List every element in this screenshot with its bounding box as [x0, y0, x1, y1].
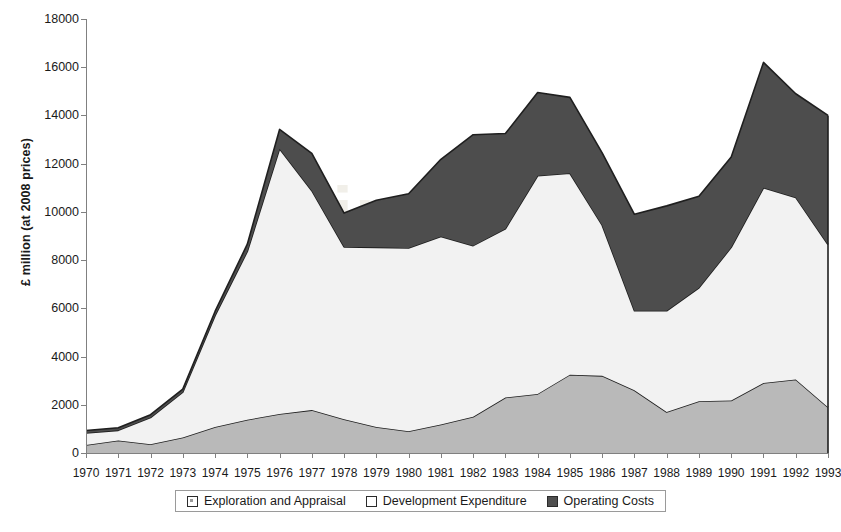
y-tick-label: 2000 — [51, 398, 79, 412]
x-tick-label: 1970 — [73, 466, 100, 480]
y-tick — [81, 67, 86, 68]
x-tick — [796, 453, 797, 458]
x-tick-label: 1990 — [718, 466, 745, 480]
x-tick-label: 1972 — [137, 466, 164, 480]
x-tick-label: 1973 — [169, 466, 196, 480]
x-tick — [183, 453, 184, 458]
x-tick — [118, 453, 119, 458]
legend-swatch-icon — [547, 496, 558, 507]
x-tick — [538, 453, 539, 458]
y-tick-label: 8000 — [51, 253, 79, 267]
x-tick-label: 1976 — [266, 466, 293, 480]
y-tick-label: 0 — [72, 446, 79, 460]
x-tick — [376, 453, 377, 458]
y-tick — [81, 405, 86, 406]
x-tick — [731, 453, 732, 458]
x-axis-line — [86, 453, 828, 454]
x-tick — [828, 453, 829, 458]
x-tick-label: 1980 — [395, 466, 422, 480]
x-tick — [634, 453, 635, 458]
x-tick-label: 1987 — [621, 466, 648, 480]
x-tick-label: 1986 — [589, 466, 616, 480]
y-axis-line — [86, 19, 87, 454]
x-tick-label: 1974 — [202, 466, 229, 480]
y-tick-label: 4000 — [51, 350, 79, 364]
y-tick-label: 12000 — [44, 157, 79, 171]
y-tick-label: 10000 — [44, 205, 79, 219]
x-tick-label: 1993 — [815, 466, 841, 480]
x-tick — [667, 453, 668, 458]
y-tick — [81, 164, 86, 165]
x-tick — [602, 453, 603, 458]
y-tick-label: 16000 — [44, 60, 79, 74]
y-tick-label: 18000 — [44, 12, 79, 26]
x-tick — [441, 453, 442, 458]
y-axis-title: £ million (at 2008 prices) — [19, 102, 33, 322]
x-tick-label: 1991 — [750, 466, 777, 480]
legend-item-exploration-and-appraisal: Exploration and Appraisal — [187, 494, 346, 508]
x-tick-label: 1981 — [428, 466, 455, 480]
x-tick — [86, 453, 87, 458]
y-tick — [81, 260, 86, 261]
x-tick — [473, 453, 474, 458]
x-tick-label: 1979 — [363, 466, 390, 480]
x-tick — [699, 453, 700, 458]
x-tick-label: 1977 — [298, 466, 325, 480]
x-tick-label: 1985 — [557, 466, 584, 480]
x-tick — [215, 453, 216, 458]
legend-item-development-expenditure: Development Expenditure — [366, 494, 527, 508]
legend-swatch-icon — [366, 496, 377, 507]
x-tick — [151, 453, 152, 458]
x-tick — [247, 453, 248, 458]
plot-area: SinceRep 0200040006000800010000120001400… — [86, 19, 828, 453]
x-tick-label: 1984 — [524, 466, 551, 480]
x-tick-label: 1975 — [234, 466, 261, 480]
chart-legend: Exploration and Appraisal Development Ex… — [175, 490, 666, 512]
legend-item-operating-costs: Operating Costs — [547, 494, 654, 508]
series-areas — [86, 19, 828, 454]
x-tick-label: 1983 — [492, 466, 519, 480]
y-tick — [81, 19, 86, 20]
x-tick-label: 1982 — [460, 466, 487, 480]
y-tick — [81, 357, 86, 358]
x-tick — [763, 453, 764, 458]
y-tick-label: 6000 — [51, 301, 79, 315]
legend-label: Exploration and Appraisal — [204, 494, 346, 508]
y-tick — [81, 308, 86, 309]
x-tick-label: 1978 — [331, 466, 358, 480]
x-tick — [280, 453, 281, 458]
legend-label: Operating Costs — [564, 494, 654, 508]
x-tick — [409, 453, 410, 458]
x-tick — [505, 453, 506, 458]
x-tick — [344, 453, 345, 458]
x-tick — [312, 453, 313, 458]
legend-swatch-icon — [187, 496, 198, 507]
x-tick — [570, 453, 571, 458]
x-tick-label: 1992 — [782, 466, 809, 480]
legend-label: Development Expenditure — [383, 494, 527, 508]
x-tick-label: 1989 — [686, 466, 713, 480]
x-tick-label: 1971 — [105, 466, 132, 480]
y-tick — [81, 212, 86, 213]
x-tick-label: 1988 — [653, 466, 680, 480]
y-tick — [81, 115, 86, 116]
y-tick-label: 14000 — [44, 108, 79, 122]
